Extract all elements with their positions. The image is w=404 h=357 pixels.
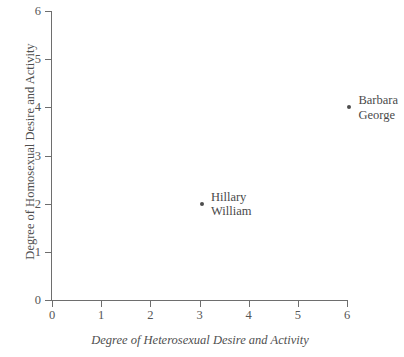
y-tick-2 (45, 204, 51, 205)
data-point-2[interactable] (347, 105, 351, 109)
x-tick-label-0: 0 (49, 309, 55, 322)
y-tick-4 (45, 107, 51, 108)
x-tick-label-5: 5 (295, 309, 301, 322)
x-tick-4 (249, 301, 250, 307)
data-point-label-group-1: HillaryWilliam (211, 189, 251, 218)
data-point-label-group-2: BarbaraGeorge (358, 93, 398, 122)
scatter-plot-figure: 0123456 0123456 HillaryWilliamBarbaraGeo… (0, 0, 404, 357)
y-tick-label-0: 0 (35, 294, 41, 307)
y-tick-3 (45, 156, 51, 157)
data-point-1[interactable] (200, 202, 204, 206)
y-axis-title: Degree of Homosexual Desire and Activity (23, 37, 38, 267)
x-tick-3 (200, 301, 201, 307)
x-tick-label-6: 6 (344, 309, 350, 322)
x-tick-label-1: 1 (98, 309, 104, 322)
x-tick-1 (101, 301, 102, 307)
x-tick-6 (347, 301, 348, 307)
data-point-label-william: William (211, 204, 251, 219)
y-axis-line (51, 11, 52, 301)
y-tick-6 (45, 11, 51, 12)
y-tick-label-6: 6 (35, 5, 41, 18)
x-tick-label-2: 2 (147, 309, 153, 322)
x-tick-0 (52, 301, 53, 307)
x-tick-2 (150, 301, 151, 307)
data-point-label-hillary: Hillary (211, 189, 251, 204)
x-axis-title: Degree of Heterosexual Desire and Activi… (52, 333, 348, 348)
y-tick-1 (45, 252, 51, 253)
y-tick-5 (45, 59, 51, 60)
x-tick-label-3: 3 (196, 309, 202, 322)
data-point-label-george: George (358, 107, 398, 122)
data-point-label-barbara: Barbara (358, 93, 398, 108)
y-tick-0 (45, 300, 51, 301)
x-tick-label-4: 4 (246, 309, 252, 322)
x-tick-5 (298, 301, 299, 307)
